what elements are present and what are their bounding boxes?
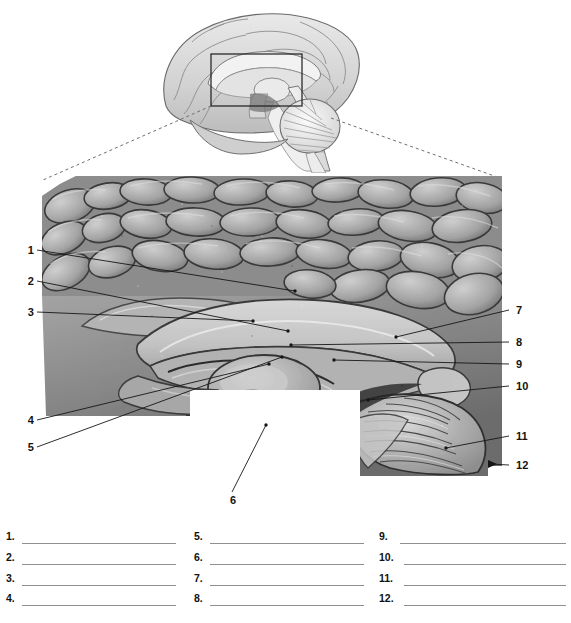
answer-rule[interactable] <box>404 585 566 586</box>
thalamus-region <box>208 355 320 421</box>
callout-label-12: 12 <box>516 460 536 471</box>
callout-label-5: 5 <box>18 442 34 453</box>
cerebellum-shape <box>280 99 340 153</box>
midsagittal-brain-photograph <box>42 176 502 476</box>
brainstem-region <box>268 400 356 476</box>
answer-rule[interactable] <box>400 543 566 544</box>
answer-rule[interactable] <box>404 605 566 606</box>
brain-key-diagram <box>150 8 430 173</box>
footnote-text <box>6 615 426 623</box>
callout-label-8: 8 <box>516 337 536 348</box>
callout-label-10: 10 <box>516 381 536 392</box>
answer-row[interactable]: 10. <box>0 551 571 572</box>
callout-label-7: 7 <box>516 305 536 316</box>
figure-root: 1 2 3 4 5 7 8 9 10 11 12 6 1. 2. 3. 4. 5… <box>0 0 571 623</box>
callout-label-4: 4 <box>18 415 34 426</box>
answer-blanks: 1. 2. 3. 4. 5. 6. 7. 8. <box>0 524 571 616</box>
pons-region <box>288 412 360 464</box>
callout-label-11: 11 <box>516 431 536 442</box>
answer-rule[interactable] <box>404 564 566 565</box>
answer-number: 10. <box>379 551 394 563</box>
answer-number: 11. <box>379 572 393 584</box>
answer-number: 12. <box>379 592 394 604</box>
answer-number: 9. <box>379 530 388 542</box>
mammillary-body-region <box>209 403 241 440</box>
callout-label-6: 6 <box>225 495 241 506</box>
answer-row[interactable]: 9. <box>0 530 571 551</box>
cistern-region <box>215 390 286 413</box>
callout-label-9: 9 <box>516 359 536 370</box>
third-ventricle-region <box>186 400 291 450</box>
callout-label-1: 1 <box>18 245 34 256</box>
callout-label-2: 2 <box>18 276 34 287</box>
callout-label-3: 3 <box>18 307 34 318</box>
answer-row[interactable]: 12. <box>0 592 571 613</box>
answer-row[interactable]: 11. <box>0 572 571 593</box>
